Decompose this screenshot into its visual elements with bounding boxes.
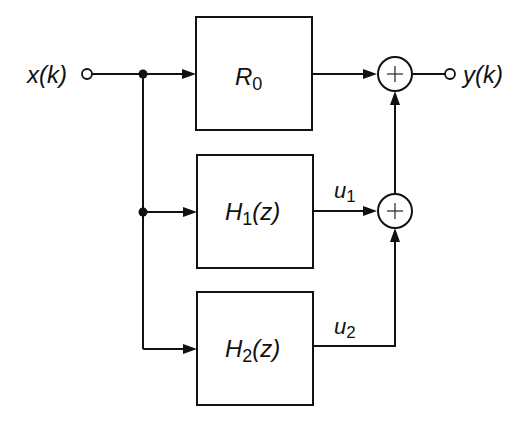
arrow-to-h2 <box>183 344 197 354</box>
block-h2: H2(z) <box>197 292 313 405</box>
summer-top <box>378 57 412 91</box>
block-h2-suffix: (z) <box>252 335 280 362</box>
block-h1: H1(z) <box>197 155 313 268</box>
block-h2-sub: 2 <box>242 346 252 366</box>
block-h1-suffix: (z) <box>252 198 280 225</box>
input-terminal <box>82 69 92 79</box>
block-h1-main: H <box>225 198 243 225</box>
signal-u1: u1 <box>334 178 356 206</box>
block-r0-main: R <box>235 63 252 90</box>
arrow-to-sum-bottom <box>363 206 377 216</box>
block-r0: R0 <box>196 17 312 130</box>
input-label: x(k) <box>26 61 67 88</box>
block-diagram: x(k) R0 H1(z) H2(z) u1 <box>0 0 526 429</box>
signal-u2: u2 <box>334 314 356 342</box>
block-h1-sub: 1 <box>242 209 252 229</box>
block-r0-sub: 0 <box>252 74 262 94</box>
block-h2-main: H <box>225 335 243 362</box>
svg-text:H1(z): H1(z) <box>225 198 280 229</box>
output-label: y(k) <box>461 61 503 88</box>
arrow-to-r0 <box>182 69 196 79</box>
arrow-to-h1 <box>183 207 197 217</box>
arrow-to-sum-top <box>363 69 377 79</box>
svg-text:H2(z): H2(z) <box>225 335 280 366</box>
summer-bottom <box>378 194 412 228</box>
arrow-up-to-sum-bottom <box>390 228 400 242</box>
arrow-up-to-sum-top <box>390 91 400 105</box>
output-terminal <box>445 69 455 79</box>
